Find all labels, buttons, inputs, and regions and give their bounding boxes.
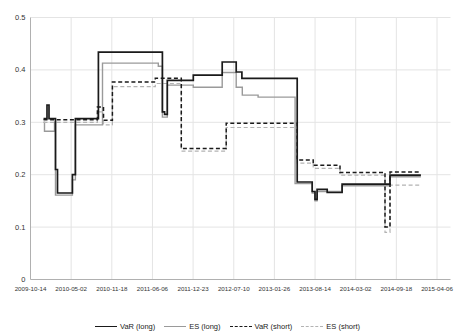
x-tick-label: 2011-12-23	[177, 285, 209, 292]
var-es-step-chart: 00.10.20.30.40.52009-10-142010-05-022010…	[0, 0, 455, 336]
y-tick-label: 0.3	[15, 118, 25, 127]
legend-label-es-long: ES (long)	[189, 322, 220, 331]
y-tick-label: 0.1	[15, 223, 25, 232]
legend-item-es-short: ES (short)	[301, 322, 360, 331]
x-tick-label: 2013-01-26	[259, 285, 291, 292]
x-tick-label: 2012-07-10	[218, 285, 250, 292]
x-tick-label: 2011-06-06	[137, 285, 169, 292]
var-long-line-sample-icon	[95, 326, 117, 327]
chart-canvas: 00.10.20.30.40.52009-10-142010-05-022010…	[0, 0, 455, 336]
y-tick-label: 0.4	[15, 65, 25, 74]
series-line-es-short	[44, 84, 421, 233]
x-tick-label: 2010-11-18	[96, 285, 128, 292]
x-tick-label: 2014-03-02	[340, 285, 372, 292]
series-line-var-long	[44, 52, 421, 199]
x-tick-label: 2009-10-14	[15, 285, 47, 292]
series-line-es-long	[44, 63, 421, 201]
legend-item-var-long: VaR (long)	[95, 322, 155, 331]
y-tick-label: 0.5	[15, 13, 25, 22]
es-long-line-sample-icon	[164, 326, 186, 327]
legend-label-var-short: VaR (short)	[255, 322, 293, 331]
legend-label-var-long: VaR (long)	[120, 322, 155, 331]
x-tick-label: 2015-04-06	[421, 285, 453, 292]
chart-legend: VaR (long) ES (long) VaR (short) ES (sho…	[0, 322, 455, 331]
var-short-line-sample-icon	[230, 326, 252, 327]
legend-label-es-short: ES (short)	[326, 322, 360, 331]
y-tick-label: 0	[21, 275, 25, 284]
legend-item-es-long: ES (long)	[164, 322, 220, 331]
y-tick-label: 0.2	[15, 170, 25, 179]
es-short-line-sample-icon	[301, 326, 323, 327]
x-tick-label: 2010-05-02	[55, 285, 87, 292]
plot-area: 00.10.20.30.40.52009-10-142010-05-022010…	[0, 0, 455, 336]
x-tick-label: 2014-09-18	[381, 285, 413, 292]
series-line-var-short	[44, 78, 421, 227]
x-tick-label: 2013-08-14	[299, 285, 331, 292]
legend-item-var-short: VaR (short)	[230, 322, 293, 331]
